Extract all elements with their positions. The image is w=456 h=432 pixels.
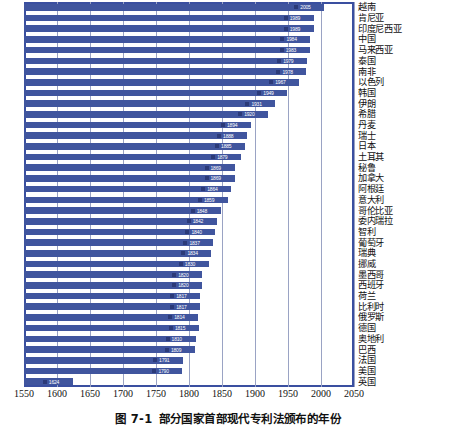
- category-label: 奥地利: [358, 334, 384, 343]
- category-label: 智利: [358, 227, 375, 236]
- bar-row: 1815: [24, 325, 354, 332]
- category-label: 土耳其: [358, 152, 384, 161]
- bar-row: 1978: [24, 68, 354, 75]
- bar-value-label: 1885: [221, 144, 231, 149]
- chart-figure: 2005198919891984198319791978196719491931…: [0, 0, 456, 432]
- x-tick-label: 1600: [47, 388, 67, 399]
- bar-value-marker: [211, 155, 215, 159]
- bar-row: 1834: [24, 250, 354, 257]
- x-tick-label: 1550: [14, 388, 34, 399]
- bar-row: 1790: [24, 368, 354, 375]
- bar-value-marker: [245, 102, 249, 106]
- bar: [24, 36, 310, 43]
- bar-value-label: 1840: [191, 229, 201, 234]
- bar-value-marker: [276, 70, 280, 74]
- bar-value-label: 1820: [178, 283, 188, 288]
- bar-row: 1983: [24, 47, 354, 54]
- bar: [24, 4, 324, 11]
- x-axis-ticks: 1550160016501700175018001850190019502000…: [0, 388, 456, 406]
- bar-value-label: 1984: [286, 37, 296, 42]
- bar: [24, 346, 195, 353]
- bar-value-label: 1979: [283, 58, 293, 63]
- bar-value-marker: [185, 230, 189, 234]
- x-tick-label: 1800: [179, 388, 199, 399]
- category-label: 荷兰: [358, 291, 375, 300]
- bar-value-marker: [201, 187, 205, 191]
- bar-row: 1949: [24, 90, 354, 97]
- bar: [24, 25, 314, 32]
- category-label: 委内瑞拉: [358, 216, 393, 225]
- bar-value-marker: [221, 123, 225, 127]
- category-label: 希腊: [358, 109, 375, 118]
- category-label: 德国: [358, 323, 375, 332]
- bar: [24, 47, 310, 54]
- bar-value-marker: [277, 59, 281, 63]
- category-label: 瑞典: [358, 248, 375, 257]
- bar-value-label: 1869: [211, 176, 221, 181]
- bar-value-label: 1931: [251, 101, 261, 106]
- bar-row: 1894: [24, 122, 354, 129]
- category-label: 瑞士: [358, 131, 375, 140]
- bar-value-label: 1879: [217, 155, 227, 160]
- bar-row: 1984: [24, 36, 354, 43]
- category-label: 加拿大: [358, 173, 384, 182]
- x-tick-label: 2050: [344, 388, 364, 399]
- category-label: 南非: [358, 67, 375, 76]
- category-label: 肯尼亚: [358, 13, 384, 22]
- bar-value-marker: [294, 5, 298, 9]
- bar-value-label: 1894: [227, 122, 237, 127]
- bar-value-marker: [191, 209, 195, 213]
- gridline: [354, 2, 355, 387]
- bar-value-marker: [168, 315, 172, 319]
- figure-caption: 图 7-1部分国家首部现代专利法颁布的年份: [0, 410, 456, 426]
- category-label: 秘鲁: [358, 163, 375, 172]
- bar-value-marker: [205, 176, 209, 180]
- bar-value-label: 1814: [174, 315, 184, 320]
- bar-row: 1920: [24, 111, 354, 118]
- plot-area: 2005198919891984198319791978196719491931…: [24, 2, 354, 387]
- bar: [24, 100, 275, 107]
- category-label: 巴西: [358, 345, 375, 354]
- category-label: 丹麦: [358, 120, 375, 129]
- figure-number: 图 7-1: [115, 412, 153, 426]
- x-tick-label: 1750: [146, 388, 166, 399]
- bar-value-marker: [205, 166, 209, 170]
- bar-value-marker: [183, 241, 187, 245]
- bar: [24, 68, 306, 75]
- category-label: 越南: [358, 2, 375, 11]
- bar-value-marker: [238, 112, 242, 116]
- bar-value-marker: [284, 16, 288, 20]
- category-label: 中国: [358, 34, 375, 43]
- category-label: 泰国: [358, 56, 375, 65]
- bar-row: 1810: [24, 336, 354, 343]
- bar-row: 1837: [24, 239, 354, 246]
- bar-value-label: 1817: [176, 294, 186, 299]
- category-label: 葡萄牙: [358, 238, 384, 247]
- bar-value-marker: [172, 273, 176, 277]
- bar-row: 1869: [24, 164, 354, 171]
- bar-value-label: 1989: [290, 16, 300, 21]
- category-label: 韩国: [358, 88, 375, 97]
- bar-row: 1888: [24, 132, 354, 139]
- category-label: 俄罗斯: [358, 312, 384, 321]
- bar: [24, 122, 251, 129]
- category-label: 马来西亚: [358, 45, 393, 54]
- bar-value-label: 1830: [185, 262, 195, 267]
- bar-value-marker: [181, 251, 185, 255]
- bar: [24, 143, 245, 150]
- bar-row: 1879: [24, 154, 354, 161]
- bar-row: 1820: [24, 271, 354, 278]
- category-label: 比利时: [358, 302, 384, 311]
- bar-row: 1809: [24, 346, 354, 353]
- x-tick-label: 2000: [311, 388, 331, 399]
- bar-value-label: 1809: [171, 347, 181, 352]
- bar-row: 1869: [24, 175, 354, 182]
- x-tick-label: 1700: [113, 388, 133, 399]
- bar: [24, 90, 287, 97]
- bar-value-label: 1820: [178, 272, 188, 277]
- bar: [24, 15, 314, 22]
- bar-value-marker: [153, 358, 157, 362]
- bar-row: 1624: [24, 378, 354, 385]
- bar-row: 1830: [24, 261, 354, 268]
- bar-value-label: 1949: [263, 90, 273, 95]
